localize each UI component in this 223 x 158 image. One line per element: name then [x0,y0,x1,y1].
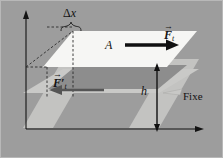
vertical-axis [23,10,29,129]
displacement-brace [61,22,81,31]
fixed-label: Fixe [183,91,203,102]
force-subscript-top: t [172,34,174,43]
vector-arrow-top-icon: → [164,22,173,31]
delta-symbol: Δ [63,6,71,20]
force-vector-bottom-label: →F′t [53,74,67,91]
delta-x-variable: x [71,6,76,20]
figure-canvas: Δx A h Fixe →Ft →F′t [0,0,223,158]
area-label: A [105,39,112,51]
force-vector-top-label: →Ft [164,26,174,43]
delta-x-label: Δx [63,7,76,19]
shear-diagram-svg [1,1,223,158]
force-subscript-bottom: t [64,82,66,91]
height-label: h [141,85,147,97]
vector-arrow-bottom-icon: → [53,70,62,79]
